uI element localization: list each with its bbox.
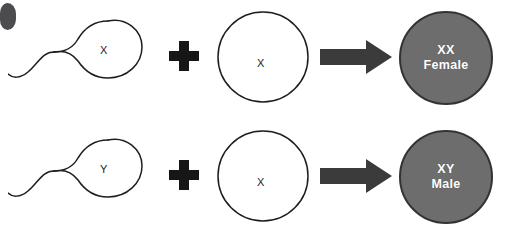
egg-chromosome-label: X bbox=[257, 58, 265, 69]
zygote-female: XX Female bbox=[396, 8, 496, 108]
sperm-chromosome-label: Y bbox=[100, 164, 108, 175]
zygote-circle-icon bbox=[396, 127, 496, 227]
sperm-shape-icon bbox=[8, 4, 178, 99]
sperm-cell-x: X bbox=[8, 4, 178, 99]
egg-cell-x: X bbox=[205, 124, 320, 229]
arrow-right-icon bbox=[318, 157, 394, 195]
result-arrow bbox=[318, 157, 394, 195]
plus-operator bbox=[163, 36, 205, 76]
cross-row-male: Y X XY Male bbox=[0, 119, 506, 238]
sperm-shape-icon bbox=[8, 123, 178, 218]
arrow-right-icon bbox=[318, 38, 394, 76]
egg-chromosome-label: X bbox=[257, 177, 265, 188]
egg-cell-x: X bbox=[205, 5, 320, 110]
sperm-cell-y: Y bbox=[8, 123, 178, 218]
plus-icon bbox=[163, 36, 205, 76]
zygote-circle-icon bbox=[396, 8, 496, 108]
sex-determination-diagram: X X XX Female bbox=[0, 0, 506, 238]
plus-operator bbox=[163, 155, 205, 195]
sperm-chromosome-label: X bbox=[100, 45, 108, 56]
plus-icon bbox=[163, 155, 205, 195]
result-arrow bbox=[318, 38, 394, 76]
cross-row-female: X X XX Female bbox=[0, 0, 506, 119]
zygote-male: XY Male bbox=[396, 127, 496, 227]
